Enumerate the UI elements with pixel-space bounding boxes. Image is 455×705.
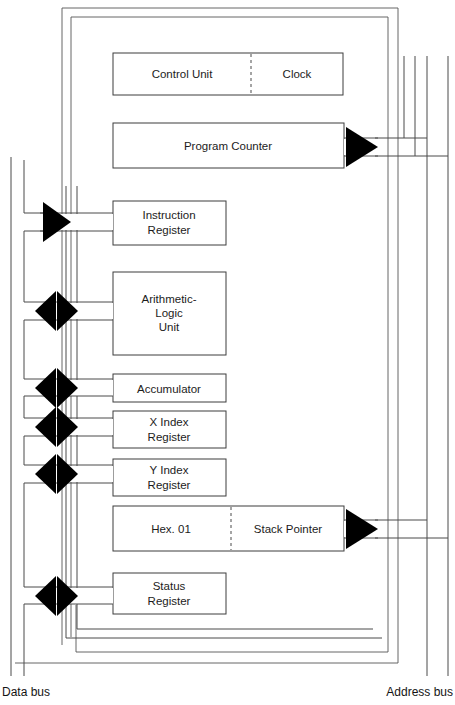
status-register-label-line2: Register [148, 595, 191, 607]
status-register-bidirectional-arrow [35, 576, 113, 616]
control-unit-label: Control Unit [152, 68, 214, 80]
y-index-register-label-line1: Y Index [150, 464, 189, 476]
status-register-label-line1: Status [153, 580, 186, 592]
program-counter-output-arrow [344, 127, 378, 167]
y-index-register-bidirectional-arrow [35, 454, 113, 494]
y-index-register-label-line2: Register [148, 479, 191, 491]
hex-01-label: Hex. 01 [151, 523, 191, 535]
data-bus-label: Data bus [2, 685, 50, 699]
clock-label: Clock [283, 68, 312, 80]
accumulator-bidirectional-arrow [35, 368, 113, 408]
instruction-register-label-line1: Instruction [142, 209, 195, 221]
stack-pointer-label: Stack Pointer [254, 523, 323, 535]
block-instruction-register[interactable] [113, 201, 226, 245]
x-index-register-label-line2: Register [148, 431, 191, 443]
alu-bidirectional-arrow [35, 291, 113, 331]
x-index-register-label-line1: X Index [150, 416, 189, 428]
accumulator-label: Accumulator [137, 383, 201, 395]
stack-pointer-output-arrow [344, 509, 378, 549]
alu-label-line1: Arithmetic- [142, 293, 197, 305]
address-bus [375, 56, 448, 676]
cpu-block-diagram: Control Unit Clock Program Counter Instr… [0, 0, 455, 705]
alu-label-line2: Logic [155, 307, 183, 319]
instruction-register-label-line2: Register [148, 224, 191, 236]
x-index-register-bidirectional-arrow [35, 407, 113, 447]
address-bus-internal-risers [404, 56, 415, 156]
address-bus-label: Address bus [386, 685, 453, 699]
program-counter-label: Program Counter [184, 140, 272, 152]
alu-label-line3: Unit [159, 321, 180, 333]
